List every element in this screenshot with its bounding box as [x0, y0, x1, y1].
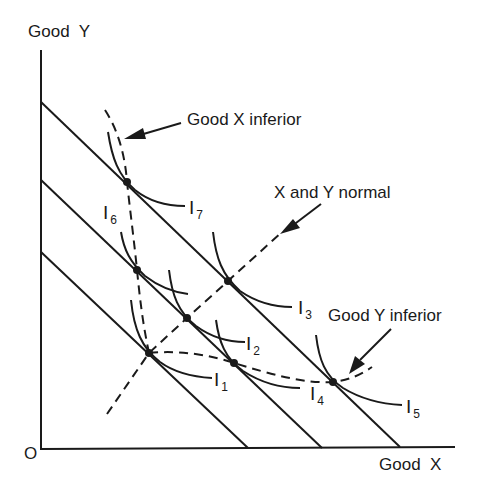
label-i5: I5 [406, 397, 420, 420]
path-x-and-y-normal [107, 232, 282, 414]
indifference-curve-i3 [213, 232, 292, 307]
point-i3 [224, 277, 232, 285]
point-i1 [145, 349, 153, 357]
budget-line-1 [41, 252, 248, 448]
label-good-y-inferior: Good Y inferior [328, 307, 442, 324]
indifference-curve-i1 [131, 300, 212, 378]
label-i2: I2 [246, 334, 260, 357]
point-i5 [329, 378, 337, 386]
origin-label: O [24, 445, 37, 462]
x-axis-label: Good X [379, 456, 441, 473]
label-i3: I3 [298, 298, 312, 321]
y-axis-label: Good Y [28, 23, 90, 40]
diagram-canvas [0, 0, 494, 497]
path-good-y-inferior [149, 352, 372, 382]
indifference-curve-i6 [121, 232, 188, 294]
arrow-good-x-inferior [124, 123, 181, 139]
point-i4 [230, 359, 238, 367]
budget-line-3 [41, 102, 400, 447]
label-i6: I6 [103, 203, 117, 226]
indifference-curve-i5 [316, 335, 402, 405]
arrow-x-and-y-normal [280, 204, 321, 234]
budget-line-2 [41, 180, 322, 448]
label-good-x-inferior: Good X inferior [187, 111, 301, 128]
label-i1: I1 [214, 370, 228, 393]
point-i2 [183, 314, 191, 322]
point-i7 [123, 178, 131, 186]
label-i7: I7 [189, 198, 203, 221]
indifference-curve-i2 [169, 270, 245, 342]
point-i6 [133, 266, 141, 274]
label-i4: I4 [310, 384, 324, 407]
label-x-and-y-normal: X and Y normal [274, 184, 391, 201]
